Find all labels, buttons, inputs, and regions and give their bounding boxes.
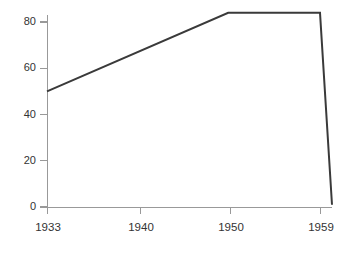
x-tick-label-1959: 1959 bbox=[295, 222, 347, 234]
x-tick-label-1933: 1933 bbox=[22, 222, 74, 234]
data-series-line bbox=[47, 13, 332, 205]
y-tick-label-20: 20 bbox=[10, 155, 36, 166]
y-tick-label-0: 0 bbox=[10, 201, 36, 212]
x-tick-label-1950: 1950 bbox=[205, 222, 257, 234]
x-tick-label-1940: 1940 bbox=[115, 222, 167, 234]
chart-plot-area bbox=[0, 0, 357, 253]
y-tick-label-80: 80 bbox=[10, 16, 36, 27]
y-tick-label-60: 60 bbox=[10, 62, 36, 73]
line-chart: 80 60 40 20 0 1933 1940 1950 1959 bbox=[0, 0, 357, 253]
y-tick-label-40: 40 bbox=[10, 109, 36, 120]
